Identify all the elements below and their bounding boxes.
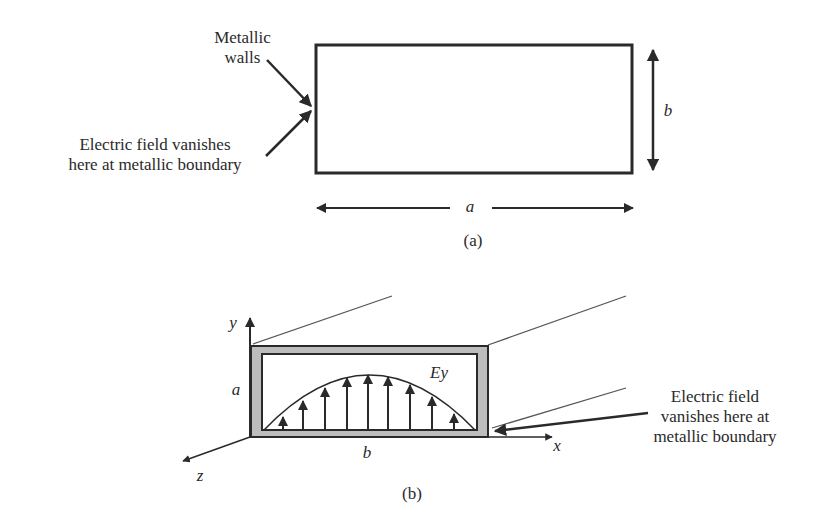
width-label-a: a: [462, 197, 478, 217]
field-label-b-line-2: vanishes here at: [630, 407, 800, 427]
field-label-b-line-1: Electric field: [630, 387, 800, 407]
field-vectors: [283, 375, 454, 430]
walls-label-line-2: walls: [200, 48, 285, 68]
field-label-a-line-1: Electric field vanishes: [40, 135, 270, 155]
figure-b: [183, 296, 648, 461]
perspective-line-top-left: [253, 296, 392, 344]
figure-a: [266, 45, 653, 208]
height-label-a: a: [229, 380, 243, 400]
field-callout-arrow: [266, 111, 311, 156]
caption-a: (a): [458, 231, 488, 251]
waveguide-cross-section: [316, 45, 632, 173]
field-label-b-line-3: metallic boundary: [630, 427, 800, 447]
perspective-line-top-right: [488, 296, 626, 345]
walls-label-line-1: Metallic: [200, 28, 285, 48]
axis-label-x: x: [550, 436, 564, 456]
waveguide-outer-boundary: [251, 346, 488, 437]
field-vanishes-label-b: Electric field vanishes here at metallic…: [630, 387, 800, 447]
axis-label-z: z: [193, 466, 207, 486]
width-label-b: b: [360, 443, 374, 463]
perspective-line-bottom-right: [492, 388, 626, 428]
field-envelope-curve: [264, 375, 475, 430]
field-vanishes-label-a: Electric field vanishes here at metallic…: [40, 135, 270, 175]
z-axis: [183, 437, 250, 461]
boundary-callout-arrow: [495, 413, 648, 431]
metallic-wall: [251, 346, 488, 437]
walls-label: Metallic walls: [200, 28, 285, 68]
field-label-a-line-2: here at metallic boundary: [40, 155, 270, 175]
caption-b: (b): [397, 484, 427, 504]
field-label-ey: Ey: [424, 363, 454, 383]
height-label-b: b: [662, 101, 674, 121]
axis-label-y: y: [226, 313, 240, 333]
